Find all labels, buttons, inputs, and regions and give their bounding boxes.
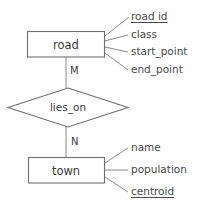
cardinality-label-town-side: N [71, 137, 78, 147]
connector-town-attr-name [105, 148, 128, 163]
entity-label-town: town [52, 164, 80, 178]
entity-label-road: road [53, 38, 79, 52]
attribute-town-name[interactable]: name [131, 142, 161, 153]
cardinality-label-road-side: M [70, 66, 79, 76]
er-diagram-svg: road lies_on town [0, 0, 205, 207]
connector-road-attr-start-point [105, 47, 128, 52]
connector-road-attr-class [105, 35, 128, 41]
attribute-road-class[interactable]: class [131, 29, 157, 40]
relationship-label-lies-on: lies_on [50, 101, 86, 114]
attribute-town-centroid[interactable]: centroid [131, 186, 174, 197]
attribute-road-end-point[interactable]: end_point [131, 64, 183, 75]
attribute-town-population[interactable]: population [131, 164, 187, 175]
attribute-road-start-point[interactable]: start_point [131, 46, 187, 57]
connector-road-attr-road-id [105, 17, 129, 36]
er-diagram-canvas: road lies_on town M N road id class star… [0, 0, 205, 207]
attribute-road-id[interactable]: road id [131, 11, 168, 22]
connector-town-attr-centroid [105, 177, 128, 192]
connector-road-attr-end-point [105, 53, 128, 70]
